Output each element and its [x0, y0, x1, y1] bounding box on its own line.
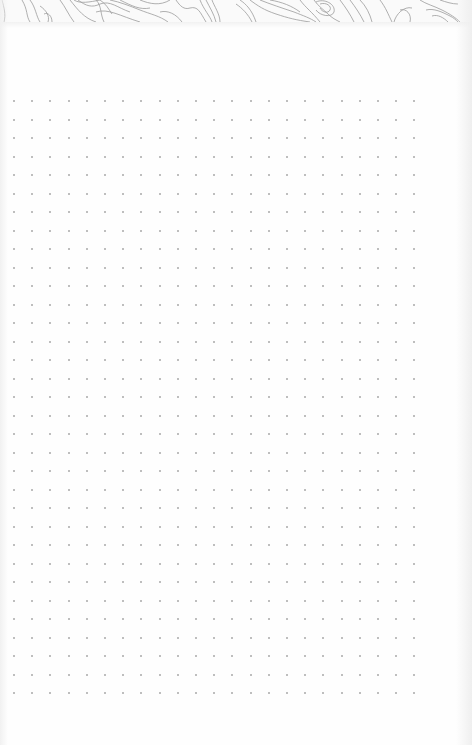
grid-dot	[286, 396, 288, 398]
grid-dot	[177, 174, 179, 176]
grid-dot	[231, 563, 233, 565]
grid-dot	[177, 304, 179, 306]
grid-dot	[213, 119, 215, 121]
grid-dot	[104, 470, 106, 472]
grid-dot	[231, 211, 233, 213]
grid-dot	[177, 692, 179, 694]
grid-dot	[268, 674, 270, 676]
grid-dot	[286, 415, 288, 417]
grid-dot	[341, 156, 343, 158]
grid-dot	[395, 600, 397, 602]
grid-dot	[177, 637, 179, 639]
grid-dot	[341, 267, 343, 269]
grid-dot	[140, 637, 142, 639]
grid-dot	[395, 433, 397, 435]
grid-dot	[86, 230, 88, 232]
grid-dot	[31, 322, 33, 324]
grid-dot	[68, 359, 70, 361]
grid-dot	[31, 489, 33, 491]
grid-dot	[359, 489, 361, 491]
grid-dot	[359, 230, 361, 232]
grid-dot	[359, 267, 361, 269]
grid-dot	[31, 415, 33, 417]
grid-dot	[359, 248, 361, 250]
grid-dot	[304, 396, 306, 398]
grid-dot	[140, 248, 142, 250]
grid-dot	[159, 119, 161, 121]
grid-dot	[359, 637, 361, 639]
grid-dot	[86, 470, 88, 472]
grid-dot	[377, 285, 379, 287]
grid-dot	[213, 415, 215, 417]
grid-dot	[13, 452, 15, 454]
grid-dot	[304, 433, 306, 435]
grid-dot	[413, 655, 415, 657]
grid-dot	[31, 267, 33, 269]
grid-dot	[395, 267, 397, 269]
grid-dot	[177, 137, 179, 139]
grid-dot	[250, 119, 252, 121]
grid-dot	[395, 581, 397, 583]
grid-dot	[268, 637, 270, 639]
grid-dot	[195, 637, 197, 639]
grid-dot	[86, 267, 88, 269]
grid-dot	[413, 452, 415, 454]
grid-dot	[231, 396, 233, 398]
grid-dot	[268, 341, 270, 343]
grid-dot	[68, 341, 70, 343]
grid-dot	[250, 285, 252, 287]
grid-dot	[341, 470, 343, 472]
grid-dot	[86, 415, 88, 417]
grid-dot	[359, 359, 361, 361]
grid-dot	[49, 563, 51, 565]
grid-dot	[13, 489, 15, 491]
grid-dot	[322, 674, 324, 676]
grid-dot	[86, 156, 88, 158]
grid-dot	[122, 119, 124, 121]
grid-dot	[395, 396, 397, 398]
grid-dot	[31, 193, 33, 195]
grid-dot	[177, 581, 179, 583]
grid-dot	[104, 137, 106, 139]
grid-dot	[159, 600, 161, 602]
grid-dot	[68, 618, 70, 620]
grid-dot	[195, 285, 197, 287]
grid-dot	[395, 674, 397, 676]
grid-dot	[213, 174, 215, 176]
grid-dot	[177, 230, 179, 232]
grid-dot	[286, 100, 288, 102]
grid-dot	[13, 618, 15, 620]
grid-dot	[322, 581, 324, 583]
grid-dot	[413, 137, 415, 139]
grid-dot	[140, 322, 142, 324]
grid-dot	[31, 174, 33, 176]
grid-dot	[49, 655, 51, 657]
grid-dot	[177, 415, 179, 417]
grid-dot	[213, 581, 215, 583]
grid-dot	[413, 248, 415, 250]
grid-dot	[250, 618, 252, 620]
grid-dot	[195, 267, 197, 269]
grid-dot	[86, 359, 88, 361]
grid-dot	[286, 655, 288, 657]
grid-dot	[159, 267, 161, 269]
grid-dot	[413, 433, 415, 435]
grid-dot	[177, 211, 179, 213]
grid-dot	[49, 285, 51, 287]
grid-dot	[231, 433, 233, 435]
grid-dot	[304, 452, 306, 454]
grid-dot	[86, 137, 88, 139]
grid-dot	[377, 137, 379, 139]
grid-dot	[268, 692, 270, 694]
grid-dot	[31, 341, 33, 343]
grid-dot	[268, 433, 270, 435]
grid-dot	[140, 137, 142, 139]
grid-dot	[231, 674, 233, 676]
grid-dot	[341, 100, 343, 102]
grid-dot	[122, 322, 124, 324]
grid-dot	[122, 433, 124, 435]
grid-dot	[377, 507, 379, 509]
grid-dot	[13, 100, 15, 102]
grid-dot	[86, 581, 88, 583]
grid-dot	[122, 341, 124, 343]
